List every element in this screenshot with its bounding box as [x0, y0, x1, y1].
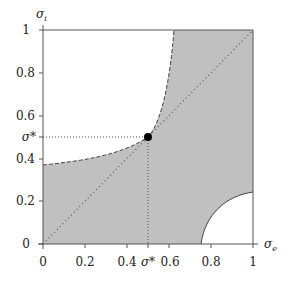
x-tick-1: 1 — [249, 255, 257, 269]
y-tick-0.6: 0.6 — [16, 109, 35, 123]
y-axis-label: σi — [36, 7, 47, 23]
x-axis-label: σe — [264, 237, 277, 253]
y-tick-0.8: 0.8 — [16, 66, 35, 80]
y-tick-0.4: 0.4 — [16, 152, 35, 166]
x-tick-0: 0 — [39, 255, 47, 269]
x-tick-0.2: 0.2 — [75, 255, 94, 269]
y-tick-1: 1 — [22, 23, 30, 37]
x-tick-0.6: 0.6 — [160, 255, 179, 269]
x-tick-0.8: 0.8 — [201, 255, 220, 269]
chart: 1 0.8 0.6 σ* 0.4 0.2 0 0 0.2 0.4 σ* 0.6 … — [0, 0, 291, 281]
sigma-star-point — [144, 133, 152, 141]
y-tick-0: 0 — [22, 237, 30, 251]
y-tick-sigma-star: σ* — [22, 130, 36, 144]
x-tick-0.4: 0.4 — [117, 255, 136, 269]
x-tick-sigma-star: σ* — [141, 255, 155, 269]
y-tick-0.2: 0.2 — [16, 194, 35, 208]
